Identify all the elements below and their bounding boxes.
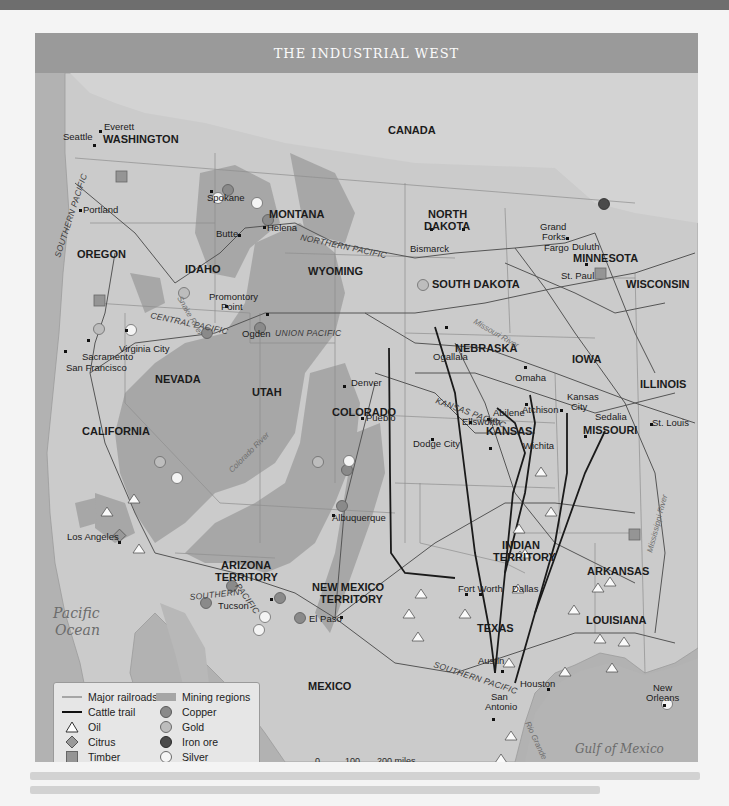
legend-item-iron-ore: Iron ore xyxy=(156,734,250,749)
state-south-dakota: SOUTH DAKOTA xyxy=(432,278,520,290)
top-bar xyxy=(0,0,729,10)
svg-text:Omaha: Omaha xyxy=(515,372,547,383)
caption-text-placeholder xyxy=(30,772,700,798)
silver-circle-icon xyxy=(159,750,173,763)
diamond-icon xyxy=(65,735,79,749)
legend-item-gold: Gold xyxy=(156,719,250,734)
svg-text:Dodge City: Dodge City xyxy=(413,438,460,449)
legend-item-major-railroads: Major railroads xyxy=(62,689,157,704)
railroad-line-icon xyxy=(62,695,82,699)
svg-text:San Francisco: San Francisco xyxy=(66,362,127,373)
triangle-icon xyxy=(65,721,79,733)
svg-text:Sacramento: Sacramento xyxy=(82,351,133,362)
state-indian-territory-2: TERRITORY xyxy=(493,551,557,563)
label-pacific-2: Ocean xyxy=(55,622,100,638)
state-iowa: IOWA xyxy=(572,353,601,365)
svg-text:Wichita: Wichita xyxy=(523,440,555,451)
state-louisiana: LOUISIANA xyxy=(586,614,647,626)
state-missouri: MISSOURI xyxy=(583,424,637,436)
legend-item-copper: Copper xyxy=(156,704,250,719)
svg-text:Seattle: Seattle xyxy=(63,131,93,142)
state-north-dakota-2: DAKOTA xyxy=(424,220,470,232)
svg-text:Atchison: Atchison xyxy=(522,404,558,415)
legend-item-silver: Silver xyxy=(156,749,250,762)
svg-text:St. Louis: St. Louis xyxy=(652,417,689,428)
svg-text:Spokane: Spokane xyxy=(207,192,245,203)
svg-text:Forks: Forks xyxy=(542,231,566,242)
scale-bar: 0 100 200 miles 0 100 200 kilometers xyxy=(315,756,425,762)
legend-item-citrus: Citrus xyxy=(62,734,157,749)
state-montana: MONTANA xyxy=(269,208,324,220)
state-utah: UTAH xyxy=(252,386,282,398)
state-texas: TEXAS xyxy=(477,622,514,634)
legend-item-oil: Oil xyxy=(62,719,157,734)
caption-line xyxy=(30,786,600,794)
legend-item-mining-regions: Mining regions xyxy=(156,689,250,704)
map-title: THE INDUSTRIAL WEST xyxy=(274,46,460,61)
svg-text:Orleans: Orleans xyxy=(646,692,680,703)
svg-text:Dallas: Dallas xyxy=(512,583,539,594)
svg-text:Albuquerque: Albuquerque xyxy=(332,512,386,523)
state-nevada: NEVADA xyxy=(155,373,201,385)
svg-text:Antonio: Antonio xyxy=(485,701,517,712)
svg-text:Butte: Butte xyxy=(216,228,238,239)
country-label-canada: CANADA xyxy=(388,124,436,136)
country-label-mexico: MEXICO xyxy=(308,680,352,692)
svg-text:St. Paul: St. Paul xyxy=(561,270,594,281)
state-wyoming: WYOMING xyxy=(308,265,363,277)
legend-item-cattle-trail: Cattle trail xyxy=(62,704,157,719)
svg-text:Pueblo: Pueblo xyxy=(366,412,396,423)
copper-circle-icon xyxy=(159,705,173,719)
map-title-bar: THE INDUSTRIAL WEST xyxy=(35,33,698,73)
svg-text:Fargo: Fargo xyxy=(544,242,569,253)
state-california: CALIFORNIA xyxy=(82,425,150,437)
square-icon xyxy=(65,750,79,763)
label-pacific-1: Pacific xyxy=(52,605,100,621)
state-new-mexico-2: TERRITORY xyxy=(320,593,384,605)
state-idaho: IDAHO xyxy=(185,263,221,275)
caption-line xyxy=(30,772,700,780)
state-indian-territory-1: INDIAN xyxy=(502,539,540,551)
state-north-dakota-1: NORTH xyxy=(428,208,467,220)
state-arizona-2: TERRITORY xyxy=(215,571,279,583)
map-canvas: CANADA MEXICO Pacific Ocean Gulf of Mexi… xyxy=(35,73,698,762)
iron-circle-icon xyxy=(159,735,173,749)
svg-text:Helena: Helena xyxy=(267,222,298,233)
gold-circle-icon xyxy=(159,720,173,734)
svg-text:Los Angeles: Los Angeles xyxy=(67,531,119,542)
legend-column-left: Major railroads Cattle trail Oil Citrus … xyxy=(62,689,157,762)
svg-text:Point: Point xyxy=(221,301,243,312)
svg-text:UNION PACIFIC: UNION PACIFIC xyxy=(275,328,342,338)
state-illinois: ILLINOIS xyxy=(640,378,686,390)
iron-ore-marker xyxy=(599,199,610,210)
svg-text:Ogallala: Ogallala xyxy=(433,351,469,362)
state-new-mexico-1: NEW MEXICO xyxy=(312,581,385,593)
state-washington: WASHINGTON xyxy=(103,133,179,145)
svg-text:Bismarck: Bismarck xyxy=(410,243,449,254)
state-arizona-1: ARIZONA xyxy=(221,559,271,571)
svg-text:Portland: Portland xyxy=(83,204,118,215)
map-figure: THE INDUSTRIAL WEST xyxy=(35,33,698,762)
square-icon xyxy=(629,529,640,540)
state-oregon: OREGON xyxy=(77,248,126,260)
svg-text:Denver: Denver xyxy=(351,377,382,388)
square-icon xyxy=(116,171,127,182)
svg-text:Ogden: Ogden xyxy=(242,328,271,339)
svg-text:El Paso: El Paso xyxy=(309,613,342,624)
legend-item-timber: Timber xyxy=(62,749,157,762)
cattle-trail-line-icon xyxy=(62,710,82,714)
svg-text:Everett: Everett xyxy=(104,121,134,132)
mining-region-swatch xyxy=(156,692,176,702)
svg-text:Houston: Houston xyxy=(520,678,555,689)
svg-text:Fort Worth: Fort Worth xyxy=(458,583,503,594)
square-icon xyxy=(595,268,606,279)
state-arkansas: ARKANSAS xyxy=(587,565,649,577)
svg-text:Duluth: Duluth xyxy=(572,241,599,252)
label-gulf-of-mexico: Gulf of Mexico xyxy=(575,742,664,756)
svg-text:City: City xyxy=(571,401,588,412)
svg-text:Austin: Austin xyxy=(478,655,504,666)
square-icon xyxy=(94,295,105,306)
map-legend: Major railroads Cattle trail Oil Citrus … xyxy=(53,682,260,762)
state-wisconsin: WISCONSIN xyxy=(626,278,690,290)
state-minnesota: MINNESOTA xyxy=(573,252,638,264)
